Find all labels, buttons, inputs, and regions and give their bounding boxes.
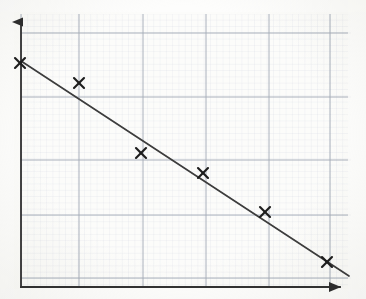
scatter-chart-figure <box>0 0 366 299</box>
minor-gridlines <box>21 14 351 287</box>
paper-edge-right <box>348 0 366 299</box>
paper-edge-left <box>0 0 14 299</box>
chart-canvas <box>0 0 366 299</box>
paper-edge-top <box>0 0 366 12</box>
paper-edge-bottom <box>0 289 366 299</box>
